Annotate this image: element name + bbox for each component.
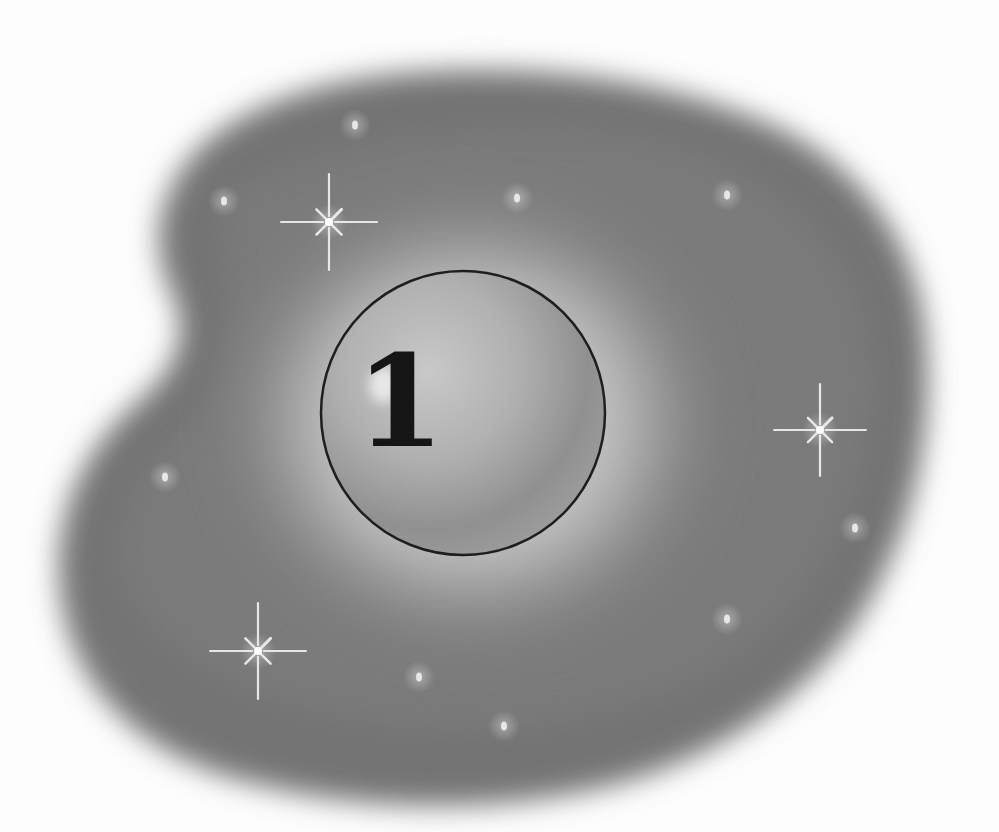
paper-grain: [0, 0, 999, 832]
illustration-scene: 1: [0, 0, 999, 832]
